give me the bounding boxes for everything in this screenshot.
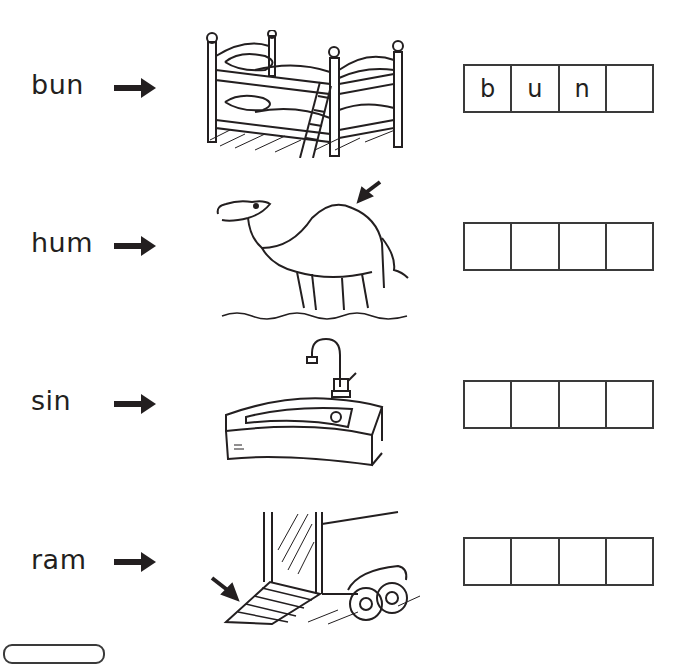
right-arrow-icon (114, 394, 156, 414)
letter-box[interactable] (607, 539, 652, 584)
letter-box[interactable] (465, 382, 512, 427)
word-label: ram (31, 546, 86, 573)
word-label: sin (31, 387, 71, 414)
letter-boxes (463, 537, 654, 586)
letter-box[interactable] (560, 224, 607, 269)
letter-box[interactable] (607, 66, 652, 111)
letter-box[interactable]: b (465, 66, 512, 111)
camel-icon (212, 178, 412, 323)
word-label: hum (31, 229, 93, 256)
page-tab-outline (3, 644, 105, 664)
letter-box[interactable] (512, 539, 559, 584)
letter-box[interactable] (560, 539, 607, 584)
letter-box[interactable] (607, 224, 652, 269)
letter-box[interactable]: u (512, 66, 559, 111)
letter-boxes (463, 222, 654, 271)
trailer-ramp-icon (208, 510, 423, 628)
letter-box[interactable] (607, 382, 652, 427)
right-arrow-icon (114, 552, 156, 572)
right-arrow-icon (114, 78, 156, 98)
letter-box[interactable]: n (560, 66, 607, 111)
letter-boxes (463, 380, 654, 429)
bunk-bed-icon (205, 30, 407, 158)
sink-icon (222, 335, 384, 475)
word-label: bun (31, 71, 84, 98)
letter-box[interactable] (465, 224, 512, 269)
right-arrow-icon (114, 236, 156, 256)
letter-box[interactable] (512, 224, 559, 269)
letter-box[interactable] (465, 539, 512, 584)
letter-box[interactable] (560, 382, 607, 427)
letter-box[interactable] (512, 382, 559, 427)
letter-boxes: b u n (463, 64, 654, 113)
